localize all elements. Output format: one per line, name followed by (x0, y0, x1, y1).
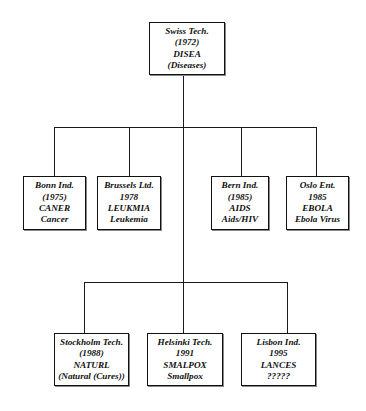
node-code: LEUKMIA (108, 203, 150, 214)
node-lisbon-ind: Lisbon Ind. 1995 LANCES ????? (241, 333, 316, 386)
node-stockholm-tech: Stockholm Tech. (1988) NATURL (Natural (… (54, 333, 129, 386)
node-year: (1988) (79, 348, 104, 359)
connector-level2-bar (84, 282, 288, 283)
node-bonn-ind: Bonn Ind. (1975) CANER Cancer (23, 176, 86, 230)
node-description: (Diseases) (168, 60, 207, 71)
node-code: LANCES (261, 360, 297, 371)
connector-to-lisbon (287, 282, 288, 333)
node-year: 1991 (176, 348, 194, 359)
connector-to-stockholm (84, 282, 85, 333)
connector-level1-bar (54, 127, 317, 128)
node-description: ????? (267, 371, 290, 382)
connector-to-brussels (129, 127, 130, 176)
node-swiss-tech: Swiss Tech. (1972) DISEA (Diseases) (149, 22, 225, 75)
node-company: Helsinki Tech. (158, 337, 213, 348)
node-year: (1975) (42, 192, 67, 203)
node-year: (1985) (228, 192, 253, 203)
connector-to-bern (241, 127, 242, 176)
node-company: Stockholm Tech. (60, 337, 123, 348)
node-code: DISEA (173, 49, 201, 60)
node-helsinki-tech: Helsinki Tech. 1991 SMALPOX Smallpox (147, 333, 223, 386)
node-description: Ebola Virus (295, 214, 340, 225)
node-year: 1985 (308, 192, 326, 203)
connector-root-trunk (183, 75, 184, 333)
node-year: 1995 (269, 348, 287, 359)
node-company: Swiss Tech. (165, 26, 209, 37)
node-year: (1972) (175, 37, 200, 48)
node-description: Smallpox (167, 371, 203, 382)
node-description: (Natural (Cures)) (58, 371, 125, 382)
node-year: 1978 (120, 192, 138, 203)
node-company: Bonn Ind. (35, 180, 74, 191)
node-description: Cancer (41, 214, 69, 225)
node-description: Aids/HIV (222, 214, 258, 225)
node-company: Brussels Ltd. (104, 180, 154, 191)
connector-to-bonn (54, 127, 55, 176)
node-code: AIDS (229, 203, 250, 214)
node-oslo-ent: Oslo Ent. 1985 EBOLA Ebola Virus (286, 176, 349, 230)
node-company: Bern Ind. (222, 180, 259, 191)
connector-to-oslo (316, 127, 317, 176)
node-description: Leukemia (110, 214, 148, 225)
node-code: CANER (39, 203, 70, 214)
node-code: SMALPOX (163, 360, 206, 371)
node-code: NATURL (73, 360, 109, 371)
node-code: EBOLA (302, 203, 333, 214)
node-company: Lisbon Ind. (257, 337, 301, 348)
node-company: Oslo Ent. (300, 180, 336, 191)
org-chart-diagram: Swiss Tech. (1972) DISEA (Diseases) Bonn… (0, 0, 366, 411)
node-brussels-ltd: Brussels Ltd. 1978 LEUKMIA Leukemia (97, 176, 161, 230)
node-bern-ind: Bern Ind. (1985) AIDS Aids/HIV (211, 176, 269, 230)
